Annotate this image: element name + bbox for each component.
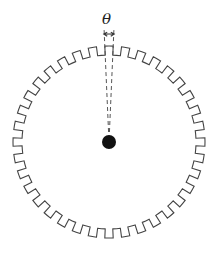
angle-arc-arrow [104,32,115,36]
left-guide-line [104,30,108,132]
angle-guide-lines [104,30,114,132]
center-hub [102,135,116,149]
theta-label: θ [102,12,111,27]
encoder-wheel-diagram [0,0,218,255]
right-guide-line [109,30,113,132]
